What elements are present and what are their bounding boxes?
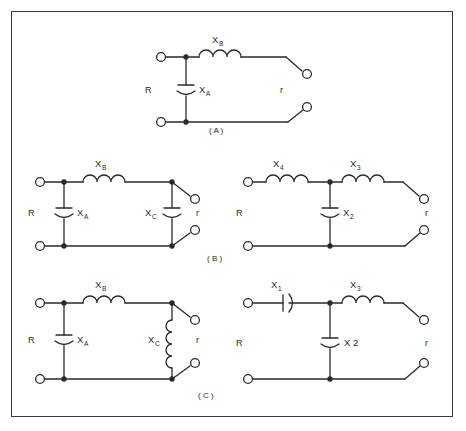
wire-a-top-diagonal — [286, 57, 302, 71]
capacitor-cl-xa-plate-bottom — [55, 341, 73, 345]
terminal-cr-out-top — [420, 316, 429, 325]
terminal-cl-out-bottom — [191, 359, 200, 368]
terminal-br-out-top — [420, 195, 429, 204]
label-cr-r-out: r — [425, 338, 428, 348]
wire-a-bottom-diagonal — [288, 110, 303, 122]
junction-cl-bottom-left — [61, 376, 66, 381]
capacitor-br-x2-plate-bottom — [321, 214, 339, 218]
label-br-r-out: r — [425, 208, 428, 218]
label-cr-x1: X — [271, 279, 278, 290]
label-a-xa-subscript: A — [206, 90, 211, 97]
label-a-r-out: r — [280, 85, 283, 95]
terminal-cr-in-bottom — [244, 375, 253, 384]
label-br-x4-subscript: 4 — [280, 164, 284, 171]
label-br-x3: X — [350, 158, 357, 169]
label-cl-xb-subscript: B — [102, 285, 106, 292]
circuit-b-left — [36, 175, 200, 250]
label-br-x2: X — [343, 207, 350, 218]
terminal-a-in-top — [157, 53, 166, 62]
terminal-a-out-bottom — [303, 103, 312, 112]
terminal-bl-in-top — [36, 178, 45, 187]
capacitor-cr-x2-plate-bottom — [321, 344, 339, 348]
label-a-r-in: R — [145, 85, 152, 95]
wire-br-top-diagonal — [403, 182, 419, 196]
label-bl-xa-subscript: A — [84, 213, 89, 220]
terminal-cl-in-top — [36, 299, 45, 308]
junction-br-bottom — [327, 243, 332, 248]
terminal-br-in-top — [244, 178, 253, 187]
circuit-c-right — [244, 294, 429, 383]
label-br-r-in: R — [236, 208, 243, 218]
label-bl-r-in: R — [28, 208, 35, 218]
terminal-br-in-bottom — [244, 242, 253, 251]
wire-cl-bottom-diagonal — [172, 366, 190, 379]
capacitor-a-xa-plate-bottom — [177, 91, 195, 95]
label-cr-x2: X 2 — [344, 337, 358, 348]
terminal-a-out-top — [303, 70, 312, 79]
label-cl-xc-subscript: C — [155, 340, 160, 347]
inductor-cr-x3 — [342, 296, 384, 303]
terminal-bl-out-bottom — [191, 226, 200, 235]
terminal-bl-out-top — [191, 195, 200, 204]
junction-br-top — [327, 179, 332, 184]
label-bl-xc-subscript: C — [152, 213, 157, 220]
label-bl-xb: X — [95, 158, 102, 169]
wire-cr-top-diagonal — [403, 303, 419, 317]
terminal-bl-in-bottom — [36, 242, 45, 251]
label-cr-x1-subscript: 1 — [278, 285, 282, 292]
wire-cr-bottom-diagonal — [405, 366, 420, 379]
circuit-b-right — [244, 175, 429, 250]
junction-cl-top-left — [61, 300, 66, 305]
inductor-a-xb — [199, 50, 241, 57]
label-cr-x3-subscript: 3 — [357, 285, 361, 292]
terminal-cr-out-bottom — [420, 359, 429, 368]
label-br-x3-subscript: 3 — [357, 164, 361, 171]
label-cl-xc: X — [148, 334, 155, 345]
junction-cr-top — [327, 300, 332, 305]
label-cr-x3: X — [350, 279, 357, 290]
label-cl-r-out: r — [196, 335, 199, 345]
label-a-xb-subscript: B — [219, 40, 223, 47]
label-cl-xb: X — [95, 279, 102, 290]
group-label-a: ( A ) — [209, 126, 224, 135]
inductor-bl-xb — [83, 175, 125, 182]
inductor-cl-xb — [83, 296, 125, 303]
label-br-x4: X — [273, 158, 280, 169]
label-a-xb: X — [212, 34, 219, 45]
inductor-br-x4 — [266, 175, 308, 182]
junction-bl-top-right — [169, 179, 174, 184]
wire-br-bottom-diagonal — [405, 233, 420, 246]
terminal-cl-out-top — [191, 316, 200, 325]
label-cr-r-in: R — [236, 338, 243, 348]
label-a-xa: X — [199, 84, 206, 95]
junction-bl-bottom-right — [169, 243, 174, 248]
junction-cl-bottom-right — [169, 376, 174, 381]
group-label-c: ( C ) — [198, 391, 214, 400]
junction-cl-top-right — [169, 300, 174, 305]
wire-bl-top-diagonal — [172, 182, 190, 196]
terminal-cr-in-top — [244, 299, 253, 308]
label-cl-r-in: R — [28, 335, 35, 345]
junction-a-top — [183, 54, 188, 59]
circuit-diagram-figure: X B X A R r ( A ) X B X A X C R r ( B ) … — [0, 0, 466, 431]
label-br-x2-subscript: 2 — [350, 213, 354, 220]
label-bl-r-out: r — [196, 208, 199, 218]
junction-cr-bottom — [327, 376, 332, 381]
junction-bl-top-left — [61, 179, 66, 184]
wire-cl-top-diagonal — [172, 303, 190, 317]
junction-bl-bottom-left — [61, 243, 66, 248]
label-cl-xa: X — [77, 334, 84, 345]
terminal-cl-in-bottom — [36, 375, 45, 384]
circuit-c-left — [36, 296, 200, 383]
label-bl-xc: X — [145, 207, 152, 218]
label-bl-xa: X — [77, 207, 84, 218]
junction-a-bottom — [183, 119, 188, 124]
capacitor-bl-xa-plate-bottom — [55, 214, 73, 218]
circuit-a — [157, 50, 312, 126]
terminal-a-in-bottom — [157, 118, 166, 127]
wire-bl-bottom-diagonal — [172, 233, 190, 246]
inductor-cl-xc — [166, 320, 172, 368]
inductor-br-x3 — [342, 175, 384, 182]
terminal-br-out-bottom — [420, 226, 429, 235]
capacitor-bl-xc-plate-bottom — [163, 214, 181, 218]
